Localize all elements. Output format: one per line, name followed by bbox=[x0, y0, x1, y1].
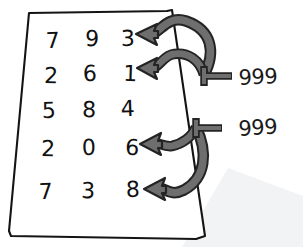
callout-lower-label: 999 bbox=[238, 114, 278, 141]
callout-label-layer: 999 999 bbox=[0, 0, 303, 247]
handwritten-sheet-scene: 7 9 3 2 6 1 5 8 4 2 0 6 7 3 8 bbox=[0, 0, 303, 247]
callout-upper-label: 999 bbox=[238, 64, 278, 90]
